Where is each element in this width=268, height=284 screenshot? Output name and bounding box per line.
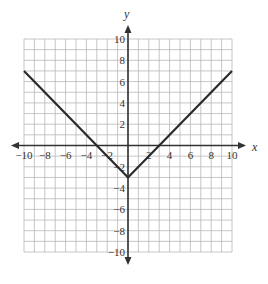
y-tick-label: 4 [120, 97, 126, 109]
y-tick-label: 2 [120, 118, 126, 130]
x-axis-label: x [251, 140, 258, 154]
y-tick-label: −4 [113, 182, 125, 194]
y-tick-label: −2 [113, 161, 125, 173]
x-tick-label: −4 [81, 149, 93, 161]
x-tick-label: −6 [60, 149, 72, 161]
x-tick-label: 10 [227, 149, 239, 161]
x-tick-label: −2 [101, 149, 113, 161]
x-tick-label: 6 [188, 149, 194, 161]
y-tick-label: −8 [113, 225, 125, 237]
x-axis-arrow-right-icon [238, 142, 246, 149]
x-tick-label: −10 [15, 149, 33, 161]
y-tick-label: −10 [108, 246, 126, 258]
x-tick-label: 4 [167, 149, 173, 161]
y-axis-arrow-up-icon [125, 25, 132, 33]
coordinate-plane: −10−8−6−4−2246810108642−2−4−6−8−10 x y [0, 0, 268, 284]
y-axis-label: y [123, 7, 130, 21]
x-tick-label: −8 [39, 149, 51, 161]
axes [11, 25, 246, 265]
y-tick-label: 10 [114, 33, 126, 45]
y-tick-label: −6 [113, 203, 125, 215]
y-tick-label: 8 [120, 54, 126, 66]
x-tick-label: 8 [208, 149, 214, 161]
y-axis-arrow-down-icon [125, 257, 132, 265]
y-tick-label: 6 [120, 76, 126, 88]
